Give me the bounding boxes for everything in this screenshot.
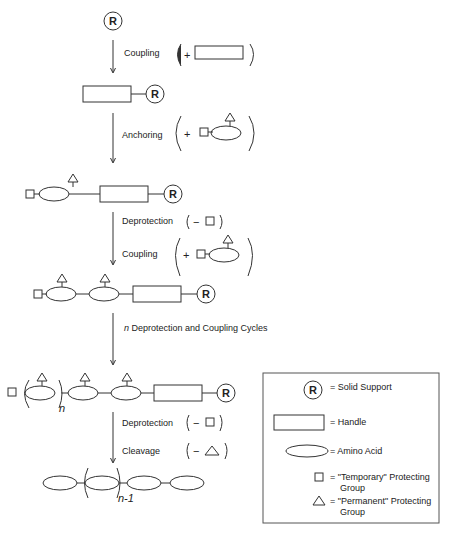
svg-text:R: R — [222, 387, 230, 399]
svg-text:+: + — [183, 249, 189, 261]
step-label-deprotection-2: Deprotection — [122, 418, 173, 428]
handle-icon — [274, 415, 324, 430]
svg-text:R: R — [169, 188, 177, 200]
legend-amino-acid: = Amino Acid — [330, 446, 382, 456]
handle-icon — [83, 86, 131, 102]
svg-text:n: n — [59, 402, 65, 414]
svg-text:R: R — [151, 88, 159, 100]
square-icon — [315, 473, 323, 481]
legend-temporary: = "Temporary" Protecting — [330, 472, 430, 482]
step-label-cycles: n Deprotection and Coupling Cycles — [124, 323, 268, 333]
synthesis-diagram: R Coupling + R Anchoring + — [0, 0, 451, 539]
svg-text:−: − — [193, 445, 199, 457]
step-label-cleavage: Cleavage — [122, 446, 160, 456]
amino-acid-icon — [286, 445, 328, 457]
step-label-anchoring: Anchoring — [122, 130, 163, 140]
svg-text:+: + — [184, 49, 190, 61]
step-label-deprotection-1: Deprotection — [122, 216, 173, 226]
svg-text:Group: Group — [340, 507, 365, 517]
legend-handle: = Handle — [330, 417, 366, 427]
step-label-coupling-1: Coupling — [124, 48, 160, 58]
svg-text:−: − — [193, 216, 199, 228]
svg-text:−: − — [193, 417, 199, 429]
triangle-icon — [313, 496, 325, 505]
svg-text:n-1: n-1 — [118, 492, 134, 504]
svg-text:R: R — [309, 384, 317, 396]
svg-text:R: R — [109, 15, 117, 27]
amino-acid-icon — [39, 187, 69, 201]
handle-icon — [195, 46, 243, 59]
svg-text:+: + — [184, 128, 190, 140]
svg-text:R: R — [202, 288, 210, 300]
step-label-coupling-2: Coupling — [122, 249, 158, 259]
legend-solid-support: = Solid Support — [330, 382, 392, 392]
legend-box: R = Solid Support = Handle = Amino Acid … — [263, 373, 439, 523]
svg-text:Group: Group — [340, 483, 365, 493]
legend-permanent: = "Permanent" Protecting — [330, 496, 431, 506]
